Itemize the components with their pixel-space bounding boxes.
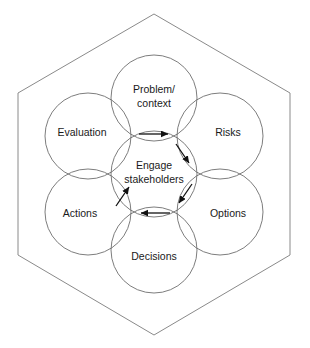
label-engage-stakeholders-line2: stakeholders	[124, 173, 184, 185]
label-evaluation: Evaluation	[57, 126, 106, 138]
label-problem-context-line2: context	[137, 97, 171, 109]
label-engage-stakeholders-line1: Engage	[136, 159, 172, 171]
label-actions: Actions	[63, 207, 97, 219]
stakeholder-cycle-diagram: Problem/ context Risks Options Decisions…	[0, 0, 310, 348]
diagram-root: Problem/ context Risks Options Decisions…	[0, 0, 310, 348]
label-decisions: Decisions	[131, 250, 177, 262]
label-risks: Risks	[215, 126, 241, 138]
label-options: Options	[210, 207, 246, 219]
label-problem-context-line1: Problem/	[133, 83, 175, 95]
